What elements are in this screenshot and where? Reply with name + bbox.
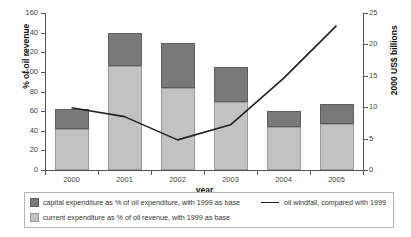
y-axis-right-title: 2000 US$ billions: [390, 5, 399, 115]
y-axis-right-tick: [364, 107, 368, 108]
y-axis-right-tick: [364, 76, 368, 77]
x-axis-tick-label: 2000: [50, 176, 94, 184]
legend-item-current-expenditure: current expenditure as % of oil revenue,…: [30, 211, 230, 224]
y-axis-right-tick-label: 25: [369, 9, 395, 17]
legend-label-windfall: oil windfall, compared with 1999: [284, 199, 386, 206]
x-axis-tick: [151, 171, 152, 175]
legend-item-oil-windfall: oil windfall, compared with 1999: [261, 196, 386, 209]
x-axis-tick: [45, 171, 46, 175]
x-axis-tick: [98, 171, 99, 175]
legend-label-current: current expenditure as % of oil revenue,…: [43, 214, 230, 221]
x-axis-tick: [363, 171, 364, 175]
y-axis-left-tick-label: 0: [12, 166, 38, 174]
legend-line-marker-icon: [261, 202, 279, 203]
x-axis-tick: [257, 171, 258, 175]
legend-label-capital: capital expenditure as % of oil expendit…: [43, 199, 240, 206]
x-axis-tick-label: 2003: [209, 176, 253, 184]
y-axis-right-tick: [364, 170, 368, 171]
y-axis-right-tick: [364, 139, 368, 140]
y-axis-left-tick-label: 160: [12, 9, 38, 17]
y-axis-right-tick-label: 20: [369, 40, 395, 48]
x-axis-tick-label: 2002: [156, 176, 200, 184]
y-axis-right-tick: [364, 44, 368, 45]
legend-swatch-capital-icon: [30, 198, 39, 207]
y-axis-left-tick-label: 60: [12, 107, 38, 115]
x-axis-tick: [310, 171, 311, 175]
oil-windfall-line-path: [72, 26, 337, 140]
legend-swatch-current-icon: [30, 213, 39, 222]
y-axis-right-tick-label: 0: [369, 166, 395, 174]
y-axis-right-tick-label: 15: [369, 72, 395, 80]
x-axis-tick: [204, 171, 205, 175]
x-axis-tick-label: 2001: [103, 176, 147, 184]
chart-legend: capital expenditure as % of oil expendit…: [24, 192, 394, 228]
y-axis-right-tick-label: 10: [369, 103, 395, 111]
y-axis-right-tick-label: 5: [369, 135, 395, 143]
y-axis-left-tick-label: 100: [12, 68, 38, 76]
y-axis-left-tick-label: 120: [12, 48, 38, 56]
x-axis-tick-label: 2005: [315, 176, 359, 184]
x-axis-tick-label: 2004: [262, 176, 306, 184]
chart-container: % of oil revenue 2000 US$ billions year …: [0, 0, 411, 237]
legend-item-capital-expenditure: capital expenditure as % of oil expendit…: [30, 196, 240, 209]
y-axis-right-line: [363, 13, 364, 170]
y-axis-right-tick: [364, 13, 368, 14]
y-axis-left-tick-label: 140: [12, 29, 38, 37]
line-series-oil-windfall: [45, 13, 363, 170]
y-axis-left-tick-label: 80: [12, 88, 38, 96]
y-axis-left-tick-label: 20: [12, 146, 38, 154]
y-axis-left-tick-label: 40: [12, 127, 38, 135]
